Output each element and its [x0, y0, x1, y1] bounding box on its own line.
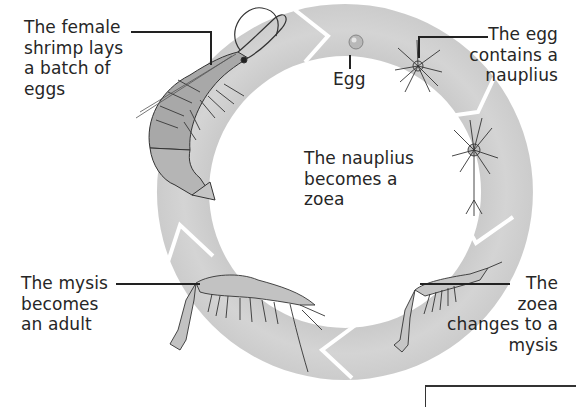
- egg-illustration: [349, 35, 363, 49]
- label-mysis-becomes-adult: The mysis becomes an adult: [21, 273, 108, 335]
- label-zoea-changes-to-mysis: The zoea changes to a mysis: [447, 273, 558, 355]
- leader-line-egg: [349, 55, 351, 69]
- leader-line-female-vertical: [210, 31, 212, 65]
- label-egg-contains-nauplius: The egg contains a nauplius: [469, 24, 558, 86]
- label-female-lays-eggs: The female shrimp lays a batch of eggs: [24, 17, 123, 99]
- bottom-frame-edge: [425, 385, 576, 407]
- leader-line-mysis-adult: [116, 283, 200, 285]
- leader-line-female-horizontal: [131, 31, 211, 33]
- leader-line-nauplius-vertical: [418, 36, 420, 58]
- label-nauplius-becomes-zoea: The nauplius becomes a zoea: [304, 148, 414, 210]
- label-egg: Egg: [333, 69, 366, 90]
